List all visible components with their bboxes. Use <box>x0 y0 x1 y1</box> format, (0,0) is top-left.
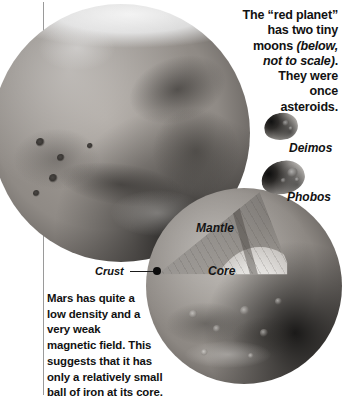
intro-line-7: asteroids. <box>280 100 338 114</box>
caption-line-5: suggests that it has <box>47 355 152 367</box>
intro-line-1: The “red planet” <box>242 8 338 22</box>
intro-line-2: has two tiny <box>268 23 338 37</box>
caption-line-2: low density and a <box>47 308 140 320</box>
mars-cutaway-crater <box>275 298 282 305</box>
crust-leader-line <box>130 271 154 272</box>
deimos-label: Deimos <box>289 141 332 155</box>
caption-text-block: Mars has quite a low density and a very … <box>47 291 163 401</box>
caption-line-1: Mars has quite a <box>47 292 135 304</box>
caption-line-6: only a relatively small <box>47 371 162 383</box>
intro-line-3: moons <box>253 39 297 53</box>
caption-line-4: magnetic field. This <box>47 339 151 351</box>
mars-cutaway-crater <box>248 353 254 359</box>
intro-line-6: once <box>309 84 338 98</box>
caption-line-3: very weak <box>47 323 101 335</box>
deimos-crater <box>288 126 294 131</box>
mars-cutaway-crater <box>260 329 268 337</box>
intro-line-4-period: . <box>335 54 338 68</box>
mars-cutaway-crater <box>213 325 221 333</box>
mars-infographic: The “red planet” has two tiny moons (bel… <box>0 0 343 403</box>
mantle-label: Mantle <box>196 221 234 235</box>
mars-volcano-caldera <box>36 138 45 147</box>
mars-polar-cap <box>38 25 115 71</box>
mars-volcano-caldera <box>57 154 65 162</box>
phobos-label: Phobos <box>287 190 331 204</box>
crust-pointer-dot <box>153 267 161 275</box>
caption-line-7: ball of iron at its core. <box>47 386 163 398</box>
deimos-moon-image <box>262 110 300 142</box>
intro-line-5: They were <box>278 69 338 83</box>
core-label: Core <box>208 264 235 278</box>
crust-label: Crust <box>95 265 124 277</box>
mars-cutaway-crater <box>240 306 250 316</box>
phobos-crater <box>281 177 288 183</box>
intro-text-block: The “red planet” has two tiny moons (bel… <box>182 8 338 115</box>
mars-cutaway-albedo <box>185 341 271 368</box>
intro-line-4-italic: not to scale) <box>263 54 335 68</box>
phobos-crater <box>294 177 300 183</box>
mars-cutaway-crater <box>189 310 198 319</box>
mars-volcano-caldera <box>49 174 58 183</box>
intro-line-3-italic: (below, <box>296 39 338 53</box>
mars-volcano-caldera <box>33 190 40 197</box>
mars-cutaway-crater <box>201 349 208 356</box>
